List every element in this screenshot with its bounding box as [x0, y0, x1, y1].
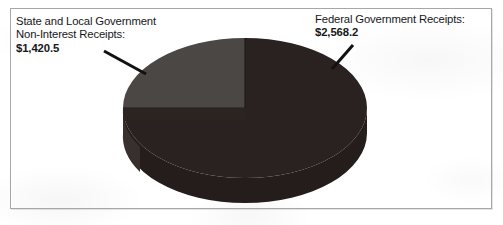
label-state-and-local: State and Local Government Non-Interest … [16, 15, 156, 55]
label-federal: Federal Government Receipts: $2,568.2 [315, 13, 465, 40]
label-federal-value: $2,568.2 [315, 26, 465, 39]
chart-screenshot: State and Local Government Non-Interest … [0, 0, 503, 225]
leader-line-federal [332, 45, 353, 69]
label-state-local-value: $1,420.5 [16, 42, 156, 55]
label-state-local-line1: State and Local Government [16, 15, 156, 28]
label-state-local-line2: Non-Interest Receipts: [16, 28, 156, 41]
label-federal-line1: Federal Government Receipts: [315, 13, 465, 26]
